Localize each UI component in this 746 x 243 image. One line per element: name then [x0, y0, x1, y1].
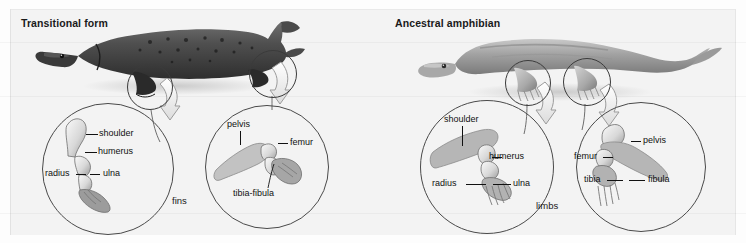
leader-shoulder-right — [462, 126, 463, 146]
locator-circle-forelimb — [505, 60, 551, 106]
label-humerus-forelimb: humerus — [489, 151, 524, 161]
locator-circle-pelvic-fin — [249, 50, 297, 98]
label-femur-pelvic: femur — [290, 137, 313, 147]
label-pelvis-hindlimb: pelvis — [643, 135, 666, 145]
leader-tibia-right — [607, 180, 623, 181]
leader-femur-left — [278, 143, 288, 144]
leader-pelvis-right — [631, 141, 641, 142]
locator-circle-pectoral-fin — [127, 64, 173, 110]
label-radius-forelimb: radius — [432, 178, 457, 188]
leader-ulna-right — [493, 184, 511, 185]
label-shoulder-forelimb: shoulder — [444, 114, 479, 124]
label-tibia-hindlimb: tibia — [584, 174, 601, 184]
callout-circle-forelimb — [420, 100, 554, 234]
caption-fins: fins — [172, 195, 187, 206]
label-radius-pectoral: radius — [45, 168, 70, 178]
callout-circle-pelvic-fin — [205, 105, 329, 229]
leader-fibula-right — [629, 180, 645, 181]
label-fibula-hindlimb: fibula — [648, 174, 670, 184]
leader-shoulder-left — [86, 134, 98, 135]
locator-circle-hindlimb — [563, 58, 611, 106]
label-ulna-forelimb: ulna — [513, 178, 530, 188]
label-femur-hindlimb: femur — [574, 151, 597, 161]
label-humerus-pectoral: humerus — [98, 146, 133, 156]
caption-limbs: limbs — [536, 200, 558, 211]
leader-ulna-left — [90, 174, 100, 175]
comparative-anatomy-figure: Transitional form Ancestral amphibian — [0, 0, 746, 243]
callout-circle-hindlimb — [576, 102, 706, 232]
label-shoulder-pectoral: shoulder — [99, 128, 134, 138]
shadow-right — [468, 83, 652, 101]
label-ulna-pectoral: ulna — [103, 168, 120, 178]
leader-radius-right — [466, 184, 486, 185]
label-tibia-fibula-pelvic: tibia-fibula — [233, 188, 274, 198]
label-pelvis-pelvic: pelvis — [227, 119, 250, 129]
leader-femur-right — [603, 157, 613, 158]
leader-pelvis-left — [240, 131, 241, 145]
leader-humerus-left — [85, 152, 97, 153]
leader-radius-left — [76, 174, 86, 175]
